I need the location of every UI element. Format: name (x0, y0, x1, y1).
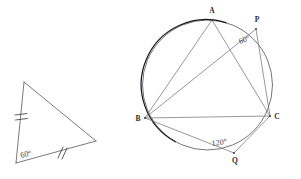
point-label-C: C (274, 112, 279, 121)
point-label-B: B (135, 114, 140, 123)
isosceles-triangle-figure: 60° (15, 82, 96, 163)
vertex-dot-C (269, 115, 271, 117)
angle-label-120-at-Q: 120° (211, 137, 227, 148)
vertex-dot-Q (233, 152, 235, 154)
circumscribed-circle (143, 20, 273, 150)
tick-marks-left-side (15, 114, 28, 121)
vertex-dot-A (211, 19, 213, 21)
circle-dark-arc (141, 20, 226, 142)
triangle-angle-label-60: 60° (19, 149, 32, 160)
circle-figure: A B C P Q 60° 120° (135, 6, 279, 165)
triangle-side-right (24, 82, 96, 141)
geometry-figure-canvas: 60° A B C P Q 60° 120° (0, 0, 301, 179)
segment-A-B (145, 20, 212, 118)
point-label-P: P (255, 15, 260, 24)
segment-P-C (256, 29, 270, 116)
point-label-A: A (209, 6, 215, 15)
segment-A-C (212, 20, 270, 116)
tick-marks-bottom-side (58, 147, 67, 159)
point-label-Q: Q (232, 156, 238, 165)
vertex-dot-P (255, 28, 257, 30)
segment-Q-C (234, 116, 270, 153)
vertex-dot-B (144, 117, 146, 119)
segment-B-C (145, 116, 270, 118)
